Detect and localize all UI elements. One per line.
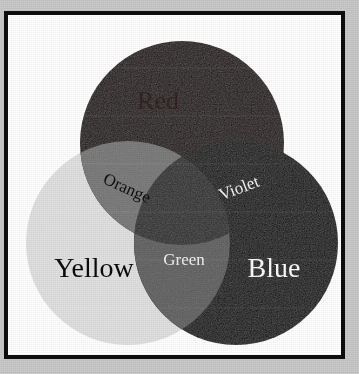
venn-diagram-graphic (8, 15, 341, 355)
figure-frame: Red Yellow Blue Orange Violet Green (4, 11, 345, 359)
figure-page: Red Yellow Blue Orange Violet Green (0, 0, 359, 374)
